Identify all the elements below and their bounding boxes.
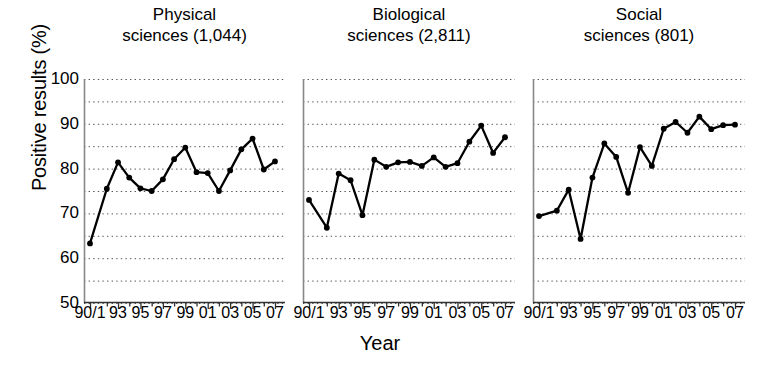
x-tick-label: 99 bbox=[401, 305, 419, 321]
x-tick-label: 99 bbox=[176, 305, 194, 321]
x-tick-label: 97 bbox=[607, 305, 625, 321]
x-tick-label: 97 bbox=[377, 305, 395, 321]
data-point bbox=[613, 154, 619, 160]
panel-biological-sciences: Biological sciences (2,811) 90/193959799… bbox=[303, 0, 515, 330]
plot-svg bbox=[533, 79, 745, 303]
panel-physical-sciences: Physical sciences (1,044) 5060708090100 … bbox=[84, 0, 285, 330]
data-point bbox=[536, 213, 542, 219]
data-point bbox=[554, 208, 560, 214]
x-tick-label: 07 bbox=[266, 305, 284, 321]
panel-title: Biological sciences (2,811) bbox=[275, 4, 543, 46]
x-tick-label: 95 bbox=[584, 305, 602, 321]
y-tick-label: 70 bbox=[60, 204, 79, 221]
panel-title: Social sciences (801) bbox=[505, 4, 760, 46]
y-tick-label: 60 bbox=[60, 249, 79, 266]
x-tick-label: 03 bbox=[449, 305, 467, 321]
x-tick-label: 93 bbox=[109, 305, 127, 321]
x-tick-label: 90/1 bbox=[74, 305, 105, 321]
x-tick-label: 99 bbox=[631, 305, 649, 321]
data-point bbox=[661, 126, 667, 132]
data-point bbox=[431, 155, 437, 161]
data-point bbox=[443, 164, 449, 170]
data-point bbox=[306, 197, 312, 203]
data-point bbox=[160, 176, 166, 182]
data-line bbox=[90, 139, 275, 244]
data-point bbox=[126, 175, 132, 181]
data-point bbox=[490, 150, 496, 156]
data-point bbox=[708, 126, 714, 132]
x-tick-label: 93 bbox=[330, 305, 348, 321]
data-point bbox=[407, 159, 413, 165]
x-axis-title: Year bbox=[0, 332, 760, 355]
data-point bbox=[216, 188, 222, 194]
data-point bbox=[502, 134, 508, 140]
data-point bbox=[590, 175, 596, 181]
x-tick-label: 95 bbox=[132, 305, 150, 321]
data-point bbox=[455, 160, 461, 166]
data-point bbox=[194, 169, 200, 175]
x-tick-label: 07 bbox=[726, 305, 744, 321]
data-point bbox=[720, 122, 726, 128]
data-point bbox=[383, 164, 389, 170]
data-point bbox=[238, 146, 244, 152]
data-point bbox=[649, 163, 655, 169]
plot-svg bbox=[84, 79, 285, 303]
y-tick-label: 100 bbox=[51, 70, 79, 87]
data-point bbox=[324, 225, 330, 231]
data-point bbox=[205, 170, 211, 176]
x-tick-label: 90/1 bbox=[293, 305, 324, 321]
x-axis-ticks: 90/19395979901030507 bbox=[303, 303, 515, 327]
data-point bbox=[395, 159, 401, 165]
data-point bbox=[227, 167, 233, 173]
data-point bbox=[360, 212, 366, 218]
x-tick-label: 97 bbox=[154, 305, 172, 321]
data-point bbox=[419, 163, 425, 169]
plot-area: 5060708090100 bbox=[84, 79, 285, 303]
data-point bbox=[566, 187, 572, 193]
x-tick-label: 01 bbox=[425, 305, 443, 321]
data-point bbox=[696, 114, 702, 120]
data-point bbox=[685, 130, 691, 136]
x-tick-label: 01 bbox=[199, 305, 217, 321]
data-point bbox=[578, 236, 584, 242]
data-point bbox=[182, 145, 188, 151]
chart-figure: Positive results (%) Physical sciences (… bbox=[0, 0, 760, 372]
data-point bbox=[466, 139, 472, 145]
x-tick-label: 05 bbox=[244, 305, 262, 321]
data-point bbox=[625, 190, 631, 196]
data-point bbox=[171, 156, 177, 162]
panel-social-sciences: Social sciences (801) 90/193959799010305… bbox=[533, 0, 745, 330]
x-tick-label: 95 bbox=[354, 305, 372, 321]
x-tick-label: 93 bbox=[560, 305, 578, 321]
y-tick-label: 80 bbox=[60, 160, 79, 177]
data-point bbox=[673, 119, 679, 125]
x-tick-label: 05 bbox=[702, 305, 720, 321]
data-point bbox=[601, 141, 607, 147]
y-tick-label: 90 bbox=[60, 115, 79, 132]
data-line bbox=[309, 126, 505, 228]
data-point bbox=[261, 167, 267, 173]
x-tick-label: 03 bbox=[221, 305, 239, 321]
data-point bbox=[348, 177, 354, 183]
data-point bbox=[149, 188, 155, 194]
data-point bbox=[138, 185, 144, 191]
data-line bbox=[539, 117, 735, 239]
data-point bbox=[371, 157, 377, 163]
x-tick-label: 90/1 bbox=[523, 305, 554, 321]
data-point bbox=[637, 144, 643, 150]
plot-area bbox=[303, 79, 515, 303]
x-tick-label: 03 bbox=[679, 305, 697, 321]
data-point bbox=[250, 136, 256, 142]
y-axis-title: Positive results (%) bbox=[28, 0, 51, 233]
data-point bbox=[104, 186, 110, 192]
x-axis-ticks: 90/19395979901030507 bbox=[84, 303, 285, 327]
data-point bbox=[336, 171, 342, 177]
data-point bbox=[87, 241, 93, 247]
data-point bbox=[478, 123, 484, 129]
data-point bbox=[272, 159, 278, 165]
x-tick-label: 05 bbox=[472, 305, 490, 321]
x-tick-label: 01 bbox=[655, 305, 673, 321]
data-point bbox=[115, 159, 121, 165]
plot-area bbox=[533, 79, 745, 303]
x-axis-ticks: 90/19395979901030507 bbox=[533, 303, 745, 327]
